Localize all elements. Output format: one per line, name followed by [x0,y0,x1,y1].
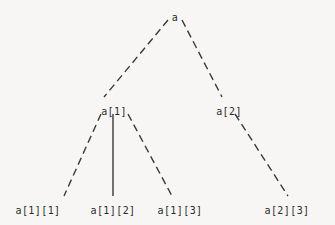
tree-node-a1_2: a[1][2] [91,205,136,216]
tree-node-a2: a[2] [216,106,242,117]
tree-edge [64,114,101,196]
tree-edge [104,20,168,97]
tree-node-a1_1: a[1][1] [16,205,61,216]
edge-layer [0,0,335,225]
edges-group [64,20,288,196]
tree-edge [235,114,288,196]
tree-edge [128,114,172,196]
tree-diagram: aa[1]a[2]a[1][1]a[1][2]a[1][3]a[2][3] [0,0,335,225]
tree-node-a1_3: a[1][3] [158,205,203,216]
tree-edge [182,20,222,97]
tree-node-a1: a[1] [101,106,127,117]
tree-node-root: a [172,12,178,23]
tree-node-a2_3: a[2][3] [265,205,310,216]
